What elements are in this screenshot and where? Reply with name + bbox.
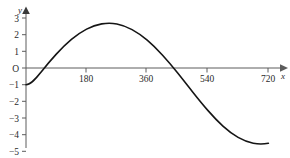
x-tick-label-720: 720 xyxy=(261,74,276,84)
graph-figure: 3 2 1 O −1 −2 −3 −4 −5 180 360 540 720 y… xyxy=(0,0,290,158)
origin-label: O xyxy=(12,64,19,74)
y-axis-arrow-icon xyxy=(22,7,30,15)
y-tick-label-neg1: −1 xyxy=(9,80,19,90)
y-tick-label-neg3: −3 xyxy=(9,114,19,124)
y-axis xyxy=(22,7,30,152)
x-axis xyxy=(22,64,288,72)
y-tick-label-neg5: −5 xyxy=(9,147,19,157)
x-tick-label-540: 540 xyxy=(200,74,215,84)
y-tick-label-1: 1 xyxy=(14,47,19,57)
y-tick-label-neg4: −4 xyxy=(9,130,19,140)
y-tick-label-neg2: −2 xyxy=(9,97,19,107)
x-tick-label-360: 360 xyxy=(139,74,154,84)
y-tick-label-2: 2 xyxy=(14,30,19,40)
x-tick-label-180: 180 xyxy=(79,74,94,84)
y-axis-label: y xyxy=(17,5,22,15)
x-axis-label: x xyxy=(280,71,285,81)
plot-svg: 3 2 1 O −1 −2 −3 −4 −5 180 360 540 720 y… xyxy=(0,0,290,158)
y-tick-label-3: 3 xyxy=(14,14,19,24)
